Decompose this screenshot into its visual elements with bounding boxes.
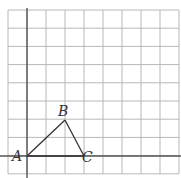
label-b: B (57, 103, 68, 119)
label-a: A (10, 148, 22, 164)
triangle-abc (27, 120, 84, 156)
grid-diagram: A B C (0, 0, 181, 178)
label-c: C (82, 149, 93, 165)
